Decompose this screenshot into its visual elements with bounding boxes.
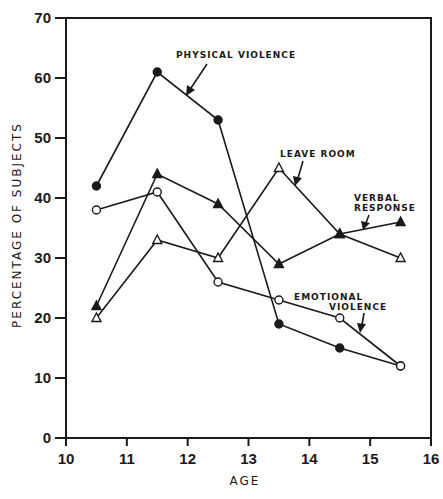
data-point-marker bbox=[336, 314, 344, 322]
data-point-marker bbox=[92, 206, 100, 214]
series-verbal-response bbox=[92, 169, 405, 310]
y-tick-label: 50 bbox=[34, 129, 51, 146]
data-point-marker bbox=[153, 235, 162, 244]
data-point-marker bbox=[396, 217, 405, 226]
x-tick-label: 13 bbox=[240, 450, 257, 467]
x-tick-label: 12 bbox=[179, 450, 196, 467]
label-physical-violence: PHYSICAL VIOLENCE bbox=[176, 50, 296, 60]
data-point-marker bbox=[153, 68, 161, 76]
x-axis-ticks: 10111213141516 bbox=[58, 438, 440, 467]
y-tick-label: 40 bbox=[34, 189, 51, 206]
data-point-marker bbox=[214, 278, 222, 286]
y-tick-label: 30 bbox=[34, 249, 51, 266]
arrow-icon bbox=[186, 64, 207, 96]
x-axis-title: AGE bbox=[230, 474, 261, 488]
data-point-marker bbox=[214, 116, 222, 124]
series-emotional-violence bbox=[92, 188, 404, 370]
data-point-marker bbox=[275, 296, 283, 304]
data-point-marker bbox=[275, 320, 283, 328]
data-point-marker bbox=[153, 188, 161, 196]
y-tick-label: 20 bbox=[34, 309, 51, 326]
label-verbal-response-line2: RESPONSE bbox=[354, 203, 416, 213]
y-axis-ticks: 010203040506070 bbox=[34, 9, 66, 446]
y-tick-label: 70 bbox=[34, 9, 51, 26]
arrow-icon bbox=[357, 313, 366, 333]
label-emotional-violence-line1: EMOTIONAL bbox=[294, 292, 363, 302]
x-tick-label: 14 bbox=[301, 450, 318, 467]
x-tick-label: 10 bbox=[58, 450, 75, 467]
x-tick-label: 11 bbox=[119, 450, 135, 467]
data-point-marker bbox=[336, 344, 344, 352]
y-axis-title: PERCENTAGE OF SUBJECTS bbox=[10, 122, 24, 328]
label-verbal-response-line1: VERBAL bbox=[354, 193, 400, 203]
plot-frame bbox=[66, 18, 431, 438]
arrow-icon bbox=[293, 161, 303, 186]
y-tick-label: 0 bbox=[43, 429, 51, 446]
data-point-marker bbox=[92, 182, 100, 190]
data-point-marker bbox=[274, 163, 283, 172]
data-point-marker bbox=[397, 362, 405, 370]
label-emotional-violence-line2: VIOLENCE bbox=[329, 302, 387, 312]
data-point-marker bbox=[153, 169, 162, 178]
label-leave-room: LEAVE ROOM bbox=[280, 149, 356, 159]
line-chart: 10111213141516 010203040506070 AGE PERCE… bbox=[0, 0, 443, 499]
x-tick-label: 16 bbox=[423, 450, 440, 467]
x-tick-label: 15 bbox=[362, 450, 379, 467]
data-point-marker bbox=[92, 301, 101, 310]
y-tick-label: 10 bbox=[34, 369, 51, 386]
y-tick-label: 60 bbox=[34, 69, 51, 86]
chart-axes bbox=[66, 18, 431, 438]
